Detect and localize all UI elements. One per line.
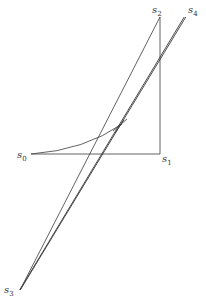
label-s3: s3 xyxy=(4,284,14,298)
label-subscript: 0 xyxy=(22,155,26,163)
diagram-canvas: s0s1s2s3s4 xyxy=(0,0,206,302)
edges-group xyxy=(20,17,186,290)
edge-s4-s3-strand-0 xyxy=(20,17,184,290)
crossing-mark xyxy=(115,120,124,133)
edge-s4-s3-strand-1 xyxy=(20,17,186,290)
labels-group: s0s1s2s3s4 xyxy=(4,4,198,298)
label-s1: s1 xyxy=(162,153,172,167)
label-s2: s2 xyxy=(152,4,162,18)
label-subscript: 4 xyxy=(193,10,198,18)
crossing-mark xyxy=(113,119,127,131)
label-subscript: 2 xyxy=(157,10,161,18)
label-s0: s0 xyxy=(17,149,27,163)
edge-s2-s3 xyxy=(20,17,160,290)
curve-s0-crossing xyxy=(31,124,122,154)
label-s4: s4 xyxy=(188,4,198,18)
label-subscript: 1 xyxy=(167,159,171,167)
label-subscript: 3 xyxy=(9,290,13,298)
